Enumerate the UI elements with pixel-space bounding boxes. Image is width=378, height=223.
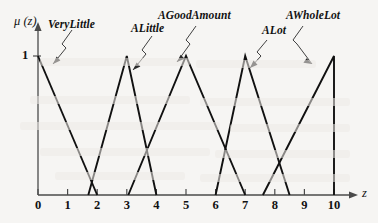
x-tick-label-6: 6 bbox=[206, 198, 226, 213]
x-tick-label-0: 0 bbox=[28, 198, 48, 213]
label-alot: ALot bbox=[262, 24, 286, 36]
curve-verylittle bbox=[38, 56, 97, 195]
label-agoodamount: AGoodAmount bbox=[158, 9, 231, 21]
y-axis bbox=[34, 22, 41, 195]
label-awholelot: AWholeLot bbox=[286, 9, 340, 21]
curve-alot bbox=[216, 56, 290, 195]
curve-agoodamount bbox=[128, 56, 245, 195]
y-axis-title: μ (z) bbox=[14, 14, 37, 29]
plot-canvas bbox=[0, 0, 378, 223]
x-tick-label-3: 3 bbox=[117, 198, 137, 213]
x-tick-label-5: 5 bbox=[176, 198, 196, 213]
leader-awholelot bbox=[293, 26, 312, 64]
curve-awholelot bbox=[263, 56, 334, 195]
x-tick-label-9: 9 bbox=[294, 198, 314, 213]
y-tick-label-1: 1 bbox=[22, 48, 28, 63]
x-tick-label-10: 10 bbox=[324, 198, 344, 213]
x-tick-label-2: 2 bbox=[87, 198, 107, 213]
x-tick-label-1: 1 bbox=[58, 198, 78, 213]
label-alittle: ALittle bbox=[131, 22, 164, 34]
fuzzy-membership-figure: μ (z) z 1 VeryLittle ALittle AGoodAmount… bbox=[0, 0, 378, 223]
x-tick-label-8: 8 bbox=[265, 198, 285, 213]
label-verylittle: VeryLittle bbox=[48, 18, 95, 30]
curve-alittle bbox=[88, 56, 156, 195]
x-tick-label-7: 7 bbox=[235, 198, 255, 213]
x-tick-label-4: 4 bbox=[146, 198, 166, 213]
x-axis-title: z bbox=[362, 186, 367, 201]
